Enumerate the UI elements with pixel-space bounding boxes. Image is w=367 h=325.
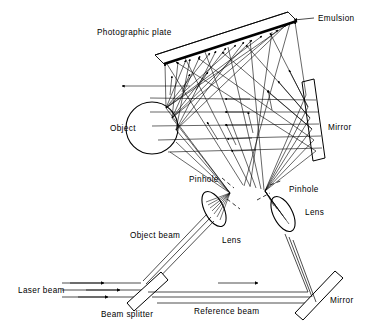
label-photographic-plate: Photographic plate <box>97 28 172 37</box>
holography-diagram-canvas: Photographic plate Emulsion Object Mirro… <box>0 0 367 325</box>
object-beam-rays <box>143 214 214 288</box>
label-laser-beam: Laser beam <box>18 286 65 295</box>
emulsion-leader <box>294 18 314 20</box>
label-object-beam: Object beam <box>130 231 180 240</box>
label-emulsion: Emulsion <box>318 14 355 23</box>
pinhole-left-marker <box>222 178 240 209</box>
label-mirror-top: Mirror <box>328 123 351 132</box>
optical-setup-svg: Photographic plate Emulsion Object Mirro… <box>0 0 367 325</box>
beam-splitter <box>127 272 168 311</box>
reference-beam-rays <box>148 292 316 303</box>
label-lens-right: Lens <box>305 208 324 217</box>
photographic-plate <box>155 12 297 64</box>
label-reference-beam: Reference beam <box>194 307 259 316</box>
label-beam-splitter: Beam splitter <box>101 310 153 319</box>
label-pinhole-left: Pinhole <box>189 175 219 184</box>
label-mirror-bottom: Mirror <box>330 296 353 305</box>
label-pinhole-right: Pinhole <box>289 185 319 194</box>
label-object: Object <box>110 124 136 133</box>
crossing-ray-arrowheads <box>207 90 272 145</box>
label-lens-left: Lens <box>222 236 241 245</box>
